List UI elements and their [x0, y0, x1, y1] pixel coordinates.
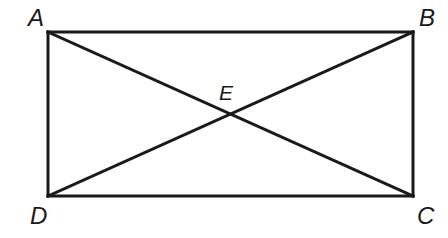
rectangle-diagonals-svg	[0, 0, 448, 238]
vertex-label-b: B	[419, 6, 435, 30]
vertex-label-a: A	[28, 6, 44, 30]
geometry-figure: A B C D E	[0, 0, 448, 238]
figure-background	[0, 0, 448, 238]
vertex-label-c: C	[417, 204, 434, 228]
vertex-label-e: E	[219, 82, 233, 103]
vertex-label-d: D	[30, 204, 47, 228]
